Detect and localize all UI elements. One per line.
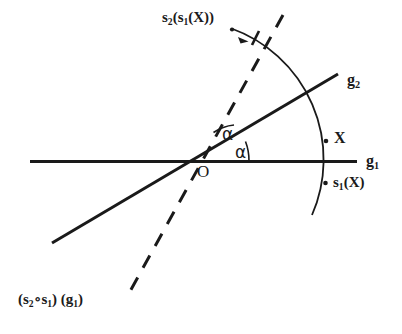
point-marker-x — [324, 139, 329, 144]
label-s2-s1-x: s2(s1(X)) — [162, 10, 214, 25]
label-line-g1: g1 — [366, 153, 379, 169]
rotation-arrow-icon — [238, 37, 249, 44]
label-line-g2: g2 — [347, 72, 360, 88]
orbit-arc — [232, 29, 324, 216]
label-angle-upper: α — [222, 126, 233, 143]
label-angle-lower: α — [235, 144, 246, 161]
label-point-s1-x: s1(X) — [333, 175, 364, 190]
point-marker-s2s1x — [230, 27, 234, 31]
label-origin: O — [197, 163, 209, 180]
line-g2 — [52, 74, 338, 243]
label-composition-image: (s2∘s1) (g1) — [18, 292, 83, 307]
point-marker-s1x — [323, 181, 328, 186]
label-point-x: X — [334, 130, 346, 146]
image-line-dashed — [128, 15, 283, 295]
geometry-diagram: s2(s1(X)) g2 X g1 s1(X) α α O (s2∘s1) (g… — [0, 0, 402, 334]
